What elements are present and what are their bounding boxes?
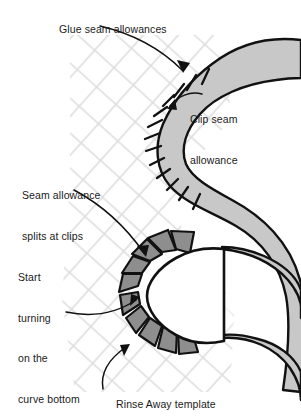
label-seam-line1: Seam allowance [22, 189, 100, 203]
label-seam-line2: splits at clips [22, 230, 100, 244]
label-start-turning: Start turning on the curve bottom [18, 244, 80, 419]
label-rinse-away-template: Rinse Away template [110, 384, 216, 411]
label-glue-text: Glue seam allowances [59, 23, 167, 35]
label-clip-line2: allowance [190, 154, 238, 168]
label-clip-seam-allowance: Clip seam allowance [190, 86, 238, 181]
label-seam-allowance-splits: Seam allowance splits at clips [22, 162, 100, 257]
label-start-line1: Start [18, 271, 80, 285]
label-start-line4: curve bottom [18, 393, 80, 407]
label-clip-line1: Clip seam [190, 113, 238, 127]
label-start-line2: turning [18, 312, 80, 326]
label-start-line3: on the [18, 352, 80, 366]
label-rinse-text: Rinse Away template [116, 398, 216, 410]
label-glue-seam-allowances: Glue seam allowances [53, 9, 167, 36]
